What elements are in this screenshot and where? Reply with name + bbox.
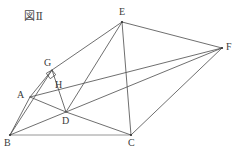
vertex-dot-b [9,134,11,136]
geometry-figure: 図Ⅱ ABCDEFGH [0,0,239,151]
figure-canvas [0,0,239,151]
segment-GE [52,22,122,70]
segment-BA [10,97,30,135]
vertex-dot-c [130,134,132,136]
vertex-label-b: B [4,138,11,148]
segment-AD [30,97,66,112]
vertex-label-a: A [17,90,24,100]
vertex-label-d: D [62,116,69,126]
vertex-label-e: E [119,7,125,17]
segment-CE [122,22,131,135]
segment-BF [10,48,222,135]
segment-DC [66,112,131,135]
vertex-label-g: G [44,58,51,68]
vertex-dot-f [221,47,223,49]
segment-BG [10,70,52,135]
vertex-label-h: H [55,80,62,90]
vertex-dot-e [121,21,123,23]
segment-DE [66,22,122,112]
segment-CF [131,48,222,135]
segment-AG [30,70,52,97]
vertex-dots-layer [9,21,223,136]
vertex-label-c: C [128,138,135,148]
segment-EF [122,22,222,48]
vertex-label-f: F [226,42,232,52]
edges-layer [10,22,222,135]
